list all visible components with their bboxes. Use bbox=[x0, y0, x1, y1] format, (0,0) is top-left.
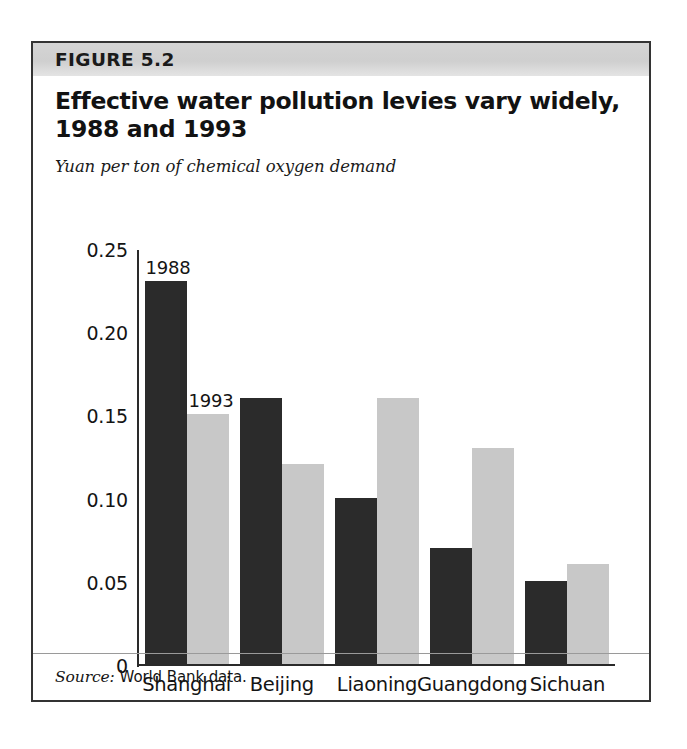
figure-subtitle: Yuan per ton of chemical oxygen demand bbox=[55, 157, 627, 176]
y-axis-tick-label: 0.25 bbox=[86, 239, 128, 261]
bar-sichuan-1993[interactable] bbox=[567, 564, 609, 664]
source-label: Source: bbox=[55, 668, 115, 686]
x-axis-tick-label: Beijing bbox=[250, 673, 314, 696]
chart-plot-area: 00.050.100.150.200.25 19881993ShanghaiBe… bbox=[137, 250, 615, 666]
bar-sichuan-1988[interactable] bbox=[525, 581, 567, 664]
bar-shanghai-1993[interactable]: 1993 bbox=[187, 414, 229, 664]
bar-group: Liaoning bbox=[329, 250, 424, 664]
source-line: Source: World Bank data. bbox=[55, 668, 247, 686]
figure-header-band: FIGURE 5.2 bbox=[33, 43, 649, 76]
title-area: Effective water pollution levies vary wi… bbox=[33, 76, 649, 176]
bar-beijing-1988[interactable] bbox=[240, 398, 282, 664]
x-axis-tick-label: Guangdong bbox=[417, 673, 528, 696]
bar-guangdong-1988[interactable] bbox=[430, 548, 472, 664]
bar-group: Beijing bbox=[234, 250, 329, 664]
x-axis-line bbox=[137, 664, 615, 666]
figure-title: Effective water pollution levies vary wi… bbox=[55, 88, 627, 143]
bar-beijing-1993[interactable] bbox=[282, 464, 324, 664]
source-divider bbox=[33, 653, 649, 654]
series-annotation-1988: 1988 bbox=[146, 257, 191, 278]
y-axis-tick-label: 0.20 bbox=[86, 322, 128, 344]
series-annotation-1993: 1993 bbox=[189, 390, 234, 411]
bar-shanghai-1988[interactable]: 1988 bbox=[145, 281, 187, 664]
figure-title-line-2: 1988 and 1993 bbox=[55, 115, 247, 143]
bar-liaoning-1988[interactable] bbox=[335, 498, 377, 664]
bar-guangdong-1993[interactable] bbox=[472, 448, 514, 664]
bar-liaoning-1993[interactable] bbox=[377, 398, 419, 664]
figure-title-line-1: Effective water pollution levies vary wi… bbox=[55, 87, 620, 115]
y-axis-tick-label: 0.15 bbox=[86, 405, 128, 427]
x-axis-tick-label: Liaoning bbox=[337, 673, 417, 696]
bar-group: Sichuan bbox=[520, 250, 615, 664]
x-axis-tick-label: Sichuan bbox=[530, 673, 605, 696]
bar-group: Guangdong bbox=[425, 250, 520, 664]
y-axis-tick-label: 0.10 bbox=[86, 489, 128, 511]
bar-group: 19881993Shanghai bbox=[139, 250, 234, 664]
bar-groups: 19881993ShanghaiBeijingLiaoningGuangdong… bbox=[139, 250, 615, 664]
figure-container: FIGURE 5.2 Effective water pollution lev… bbox=[31, 41, 651, 702]
figure-number-label: FIGURE 5.2 bbox=[55, 49, 175, 70]
source-text: World Bank data. bbox=[120, 668, 247, 686]
chart-plot-wrapper: 00.050.100.150.200.25 19881993ShanghaiBe… bbox=[33, 205, 649, 645]
y-axis-tick-label: 0.05 bbox=[86, 572, 128, 594]
